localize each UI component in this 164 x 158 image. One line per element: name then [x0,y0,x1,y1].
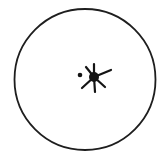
burst-core [89,72,99,82]
dot-icon [78,73,83,78]
burst-icon [82,64,111,92]
diagram-canvas [0,0,164,158]
outer-circle [15,9,156,150]
